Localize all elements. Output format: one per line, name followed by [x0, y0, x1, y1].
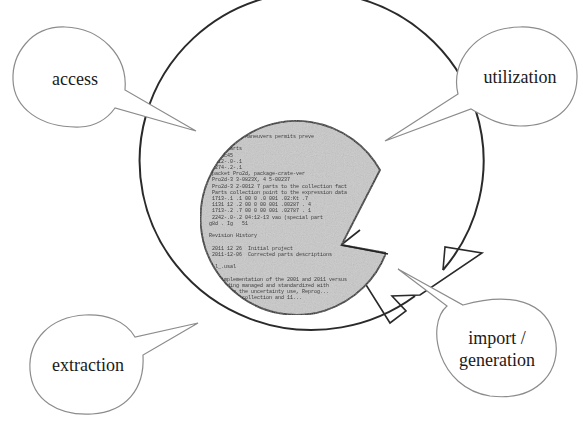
extraction-label: extraction: [52, 355, 124, 375]
label-import-generation: import / generation: [446, 327, 548, 371]
generation-label: generation: [446, 349, 548, 371]
document-text: ... catalogue Maneuvers permits preve ..…: [203, 134, 347, 301]
label-utilization: utilization: [470, 66, 570, 88]
label-access: access: [30, 68, 120, 90]
lifecycle-diagram: ... catalogue Maneuvers permits preve ..…: [0, 0, 583, 434]
utilization-label: utilization: [484, 67, 557, 87]
label-extraction: extraction: [38, 354, 138, 376]
import-label: import /: [446, 327, 548, 349]
access-label: access: [52, 69, 98, 89]
